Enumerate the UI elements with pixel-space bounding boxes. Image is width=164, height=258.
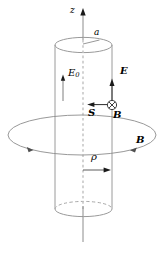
radius-indicator: [83, 40, 100, 44]
z-axis-arrowhead: [80, 8, 85, 15]
field-loop-arrow-right: [130, 147, 137, 152]
z-axis-label: z: [70, 6, 75, 15]
physics-figure: z a E0 E S B B ρ: [0, 0, 164, 258]
e-arrowhead: [110, 79, 115, 87]
applied-field-arrow-group: [61, 75, 65, 102]
electric-field-label-E: E: [120, 66, 128, 76]
applied-field-label-subscript: 0: [75, 71, 79, 79]
e0-arrowhead: [61, 75, 65, 81]
rho-arrowhead: [104, 167, 111, 172]
magnetic-field-loop: [8, 115, 156, 155]
applied-field-label-E0: E0: [68, 68, 80, 79]
radius-segment-a: [83, 40, 100, 44]
radial-coordinate-label-rho: ρ: [91, 152, 97, 162]
radial-coordinate-arrow-group: [83, 167, 111, 172]
radius-label-a: a: [94, 28, 99, 37]
field-loop-arrow-left: [27, 147, 34, 152]
cylinder-shape: [55, 37, 112, 216]
figure-canvas: [0, 0, 164, 258]
magnetic-field-into-page-label-B: B: [113, 110, 121, 120]
electric-field-arrow-group: [110, 79, 115, 104]
poynting-vector-label-S: S: [88, 108, 95, 118]
magnetic-field-loop-label-B: B: [136, 135, 144, 145]
